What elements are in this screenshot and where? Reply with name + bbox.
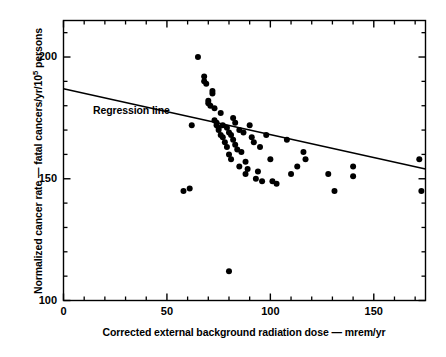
data-point xyxy=(251,139,257,145)
data-point xyxy=(418,188,424,194)
x-tick-label: 0 xyxy=(44,305,84,317)
scatter-plot-canvas xyxy=(0,0,446,357)
data-point xyxy=(226,268,232,274)
data-point xyxy=(232,120,238,126)
y-tick-label: 100 xyxy=(17,294,57,306)
data-point xyxy=(228,156,234,162)
y-tick-label: 150 xyxy=(17,172,57,184)
data-point xyxy=(331,188,337,194)
data-point xyxy=(294,164,300,170)
regression-line xyxy=(64,89,426,169)
scatter-points-group xyxy=(180,54,424,274)
data-point xyxy=(303,156,309,162)
data-point xyxy=(263,132,269,138)
data-point xyxy=(350,164,356,170)
chart-figure: Normalized cancer rate — fatal cancers/y… xyxy=(0,0,446,357)
data-point xyxy=(212,105,218,111)
data-point xyxy=(180,188,186,194)
data-point xyxy=(284,137,290,143)
data-point xyxy=(267,156,273,162)
data-point xyxy=(257,144,263,150)
data-point xyxy=(236,164,242,170)
data-point xyxy=(187,186,193,192)
data-point xyxy=(245,166,251,172)
data-point xyxy=(274,181,280,187)
y-tick-label: 200 xyxy=(17,50,57,62)
data-point xyxy=(288,171,294,177)
data-point xyxy=(224,144,230,150)
regression-line-annotation: Regression line xyxy=(93,104,170,116)
x-tick-label: 100 xyxy=(250,305,290,317)
data-point xyxy=(195,54,201,60)
data-point xyxy=(240,130,246,136)
data-point xyxy=(253,176,259,182)
data-point xyxy=(300,149,306,155)
data-point xyxy=(203,81,209,87)
x-tick-label: 150 xyxy=(354,305,394,317)
data-point xyxy=(350,173,356,179)
data-point xyxy=(189,122,195,128)
x-tick-label: 50 xyxy=(147,305,187,317)
data-point xyxy=(218,110,224,116)
y-axis-title-main: Normalized cancer rate — fatal cancers/y… xyxy=(32,75,44,294)
x-axis-title: Corrected external background radiation … xyxy=(63,326,425,338)
data-point xyxy=(247,122,253,128)
y-axis-title-exponent: 5 xyxy=(31,71,40,75)
data-point xyxy=(209,91,215,97)
data-point xyxy=(259,178,265,184)
data-point xyxy=(325,171,331,177)
data-point xyxy=(416,156,422,162)
data-point xyxy=(243,159,249,165)
data-point xyxy=(255,168,261,174)
data-point xyxy=(238,149,244,155)
